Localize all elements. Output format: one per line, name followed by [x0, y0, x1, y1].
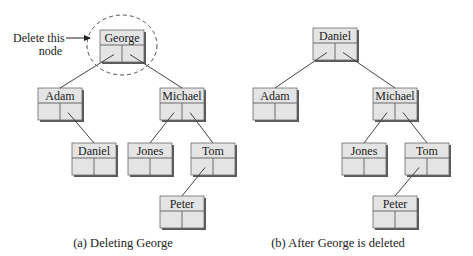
- tree-node-jones: Jones: [342, 143, 388, 177]
- tree-node-jones: Jones: [128, 143, 174, 177]
- node-label: Daniel: [319, 29, 352, 43]
- edge-daniel-to-adam: [275, 53, 327, 89]
- node-label: Peter: [383, 197, 408, 211]
- tree-node-adam: Adam: [253, 88, 299, 122]
- tree-node-michael: Michael: [373, 88, 419, 122]
- tree-node-tom: Tom: [191, 143, 237, 177]
- edge-daniel-to-michael: [343, 53, 395, 89]
- panel-b-after-deletion: DanielAdamMichaelJonesTomPeter (b) After…: [253, 28, 451, 250]
- node-label: Jones: [351, 144, 378, 158]
- node-label: Peter: [170, 197, 195, 211]
- tree-node-adam: Adam: [38, 88, 84, 122]
- node-label: Adam: [260, 89, 290, 103]
- node-label: George: [104, 31, 139, 45]
- tree-node-peter: Peter: [373, 196, 419, 230]
- edge-george-to-michael: [130, 55, 182, 89]
- panel-a-deleting-george: GeorgeAdamMichaelDanielJonesTomPeter Del…: [13, 15, 237, 250]
- diagram-canvas: GeorgeAdamMichaelDanielJonesTomPeter Del…: [0, 0, 473, 256]
- annotation-node: node: [39, 44, 62, 58]
- annotation-delete-this: Delete this: [13, 31, 65, 45]
- caption-panel-a: (a) Deleting George: [73, 236, 173, 250]
- node-label: Michael: [162, 89, 202, 103]
- panel-a-nodes: GeorgeAdamMichaelDanielJonesTomPeter: [38, 30, 237, 230]
- bst-deletion-diagram: GeorgeAdamMichaelDanielJonesTomPeter Del…: [0, 0, 473, 256]
- node-label: Adam: [45, 89, 75, 103]
- node-label: Tom: [202, 144, 224, 158]
- node-label: Tom: [416, 144, 438, 158]
- node-label: Jones: [137, 144, 164, 158]
- caption-panel-b: (b) After George is deleted: [271, 236, 405, 250]
- tree-node-tom: Tom: [405, 143, 451, 177]
- node-label: Michael: [375, 89, 415, 103]
- tree-node-daniel: Daniel: [72, 143, 118, 177]
- node-label: Daniel: [78, 144, 111, 158]
- tree-node-michael: Michael: [160, 88, 206, 122]
- tree-node-peter: Peter: [160, 196, 206, 230]
- edge-george-to-adam: [60, 55, 114, 89]
